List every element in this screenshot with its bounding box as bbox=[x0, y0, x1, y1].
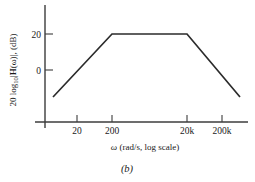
x-tick-label-20k: 20k bbox=[180, 126, 195, 136]
magnitude-response-curve bbox=[53, 34, 240, 97]
x-tick-label-200: 200 bbox=[105, 126, 120, 136]
y-axis-title-h: H bbox=[8, 68, 18, 75]
x-axis-title: ω (rad/s, log scale) bbox=[111, 142, 179, 152]
y-axis-title-lead: 20 log bbox=[8, 83, 18, 106]
x-axis-title-rest: (rad/s, log scale) bbox=[117, 142, 179, 152]
y-tick-label-20: 20 bbox=[32, 30, 42, 40]
x-tick-label-20: 20 bbox=[72, 126, 82, 136]
x-tick-label-200k: 200k bbox=[213, 126, 232, 136]
y-axis-title-omega: (ω) bbox=[8, 56, 18, 68]
y-axis-title-bar-close: |, (dB) bbox=[8, 34, 18, 57]
bode-plot-svg: 20 0 20 200 20k 200k ω (rad/s, log scale… bbox=[0, 0, 255, 182]
y-tick-label-0: 0 bbox=[36, 66, 41, 76]
bode-magnitude-figure: 20 0 20 200 20k 200k ω (rad/s, log scale… bbox=[0, 0, 255, 182]
y-axis-title: 20 log10|H(ω)|, (dB) bbox=[8, 34, 19, 107]
figure-caption: (b) bbox=[121, 163, 134, 175]
